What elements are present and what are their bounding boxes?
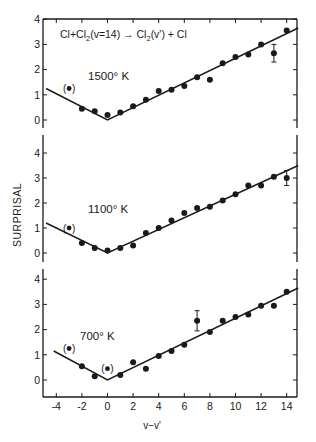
- y-tick-label: 0: [34, 374, 40, 386]
- x-tick-label: 8: [207, 400, 213, 412]
- data-point: [143, 366, 149, 372]
- x-tick-label: 14: [281, 400, 293, 412]
- y-tick-label: 4: [34, 147, 40, 159]
- x-tick-label: 12: [255, 400, 267, 412]
- data-point: [207, 204, 213, 210]
- data-point: [258, 183, 264, 189]
- paren-right: ): [72, 343, 75, 354]
- data-point: [258, 303, 264, 309]
- surprisal-chart: 012340123401234-4-202468101214 ()1500° K…: [0, 0, 316, 442]
- data-point: [284, 28, 290, 34]
- data-point: [92, 245, 98, 251]
- data-point: [130, 359, 136, 365]
- x-tick-label: 4: [156, 400, 162, 412]
- y-tick-label: 2: [34, 323, 40, 335]
- data-point: [258, 41, 264, 47]
- x-tick-label: 10: [230, 400, 242, 412]
- data-point: [271, 303, 277, 309]
- data-point: [156, 225, 162, 231]
- fit-line: [46, 166, 298, 254]
- panel-temperature-label: 700° K: [80, 330, 115, 342]
- data-point: [181, 83, 187, 89]
- data-point: [130, 103, 136, 109]
- data-point: [245, 183, 251, 189]
- data-point: [181, 342, 187, 348]
- x-tick-label: -2: [77, 400, 86, 412]
- x-tick-label: 0: [105, 400, 111, 412]
- chart-title: Cl+Cl2(v=14) → Cl2(v') + Cl: [60, 28, 187, 43]
- data-point: [79, 106, 85, 112]
- y-axis-label: SURPRISAL: [11, 183, 23, 247]
- data-point: [79, 363, 85, 369]
- data-point: [245, 51, 251, 57]
- data-point: [156, 353, 162, 359]
- panel-1: ()1500° K: [46, 28, 298, 120]
- data-point: [194, 205, 200, 211]
- data-point: [117, 109, 123, 115]
- panel-temperature-label: 1500° K: [88, 70, 129, 82]
- data-point: [220, 318, 226, 324]
- data-point: [117, 245, 123, 251]
- paren-left: (: [63, 83, 67, 94]
- x-tick-label: 6: [181, 400, 187, 412]
- data-point: [130, 243, 136, 249]
- data-point: [105, 112, 111, 118]
- data-point: [143, 230, 149, 236]
- panel-2: ()1100° K: [46, 166, 298, 254]
- paren-left: (: [63, 343, 67, 354]
- data-point: [220, 60, 226, 66]
- data-point: [194, 74, 200, 80]
- data-point: [92, 373, 98, 379]
- data-point-parenthesized: [67, 226, 72, 231]
- data-point: [92, 108, 98, 114]
- y-tick-label: 3: [34, 298, 40, 310]
- x-tick-label: 2: [130, 400, 136, 412]
- y-tick-label: 3: [34, 38, 40, 50]
- paren-right: ): [72, 223, 75, 234]
- y-tick-label: 4: [34, 273, 40, 285]
- paren-left: (: [63, 223, 67, 234]
- paren-left: (: [101, 363, 105, 374]
- y-tick-label: 3: [34, 172, 40, 184]
- data-point-parenthesized: [67, 86, 72, 91]
- data-point: [169, 87, 175, 93]
- data-point: [105, 248, 111, 254]
- surprisal-figure: 012340123401234-4-202468101214 ()1500° K…: [0, 0, 316, 442]
- data-point: [245, 311, 251, 317]
- data-point: [143, 97, 149, 103]
- data-point: [284, 175, 290, 181]
- data-point: [220, 198, 226, 204]
- data-point: [207, 329, 213, 335]
- data-point: [194, 318, 200, 324]
- y-tick-label: 2: [34, 197, 40, 209]
- data-point: [233, 191, 239, 197]
- y-tick-label: 1: [34, 349, 40, 361]
- panel-3: ()()700° K: [54, 288, 298, 380]
- y-tick-label: 2: [34, 63, 40, 75]
- paren-right: ): [72, 83, 75, 94]
- paren-right: ): [110, 363, 113, 374]
- y-tick-label: 1: [34, 89, 40, 101]
- data-point: [181, 210, 187, 216]
- data-point: [233, 54, 239, 60]
- panels: ()1500° K()1100° K()()700° K: [46, 28, 298, 380]
- data-point: [169, 348, 175, 354]
- data-point: [284, 289, 290, 295]
- y-tick-label: 4: [34, 13, 40, 25]
- data-point: [169, 218, 175, 224]
- panel-temperature-label: 1100° K: [88, 203, 129, 215]
- data-point: [156, 88, 162, 94]
- data-point-parenthesized: [105, 366, 110, 371]
- y-tick-label: 0: [34, 114, 40, 126]
- data-point: [271, 174, 277, 180]
- data-point: [271, 50, 277, 56]
- data-point: [233, 314, 239, 320]
- y-tick-label: 1: [34, 222, 40, 234]
- data-point: [117, 372, 123, 378]
- data-point-parenthesized: [67, 346, 72, 351]
- data-point: [79, 240, 85, 246]
- x-tick-label: -4: [52, 400, 61, 412]
- x-axis-label: v−v': [143, 420, 161, 431]
- data-point: [207, 77, 213, 83]
- y-tick-label: 0: [34, 247, 40, 259]
